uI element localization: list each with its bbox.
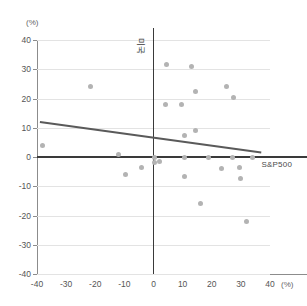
data-point [189, 64, 194, 69]
data-point [157, 159, 162, 164]
y-tick-label: 40 [0, 36, 31, 44]
gridline [37, 274, 270, 275]
y-tick-label: -10 [0, 182, 31, 190]
scatter-chart: (%) (%) 403020100-10-20-30-40 -40-30-20-… [0, 0, 307, 306]
data-point [116, 152, 121, 157]
y-tick-label: -40 [0, 270, 31, 278]
data-point [237, 165, 242, 170]
data-point [230, 155, 235, 160]
x-tick-label: -30 [51, 280, 81, 288]
x-tick-label: 40 [255, 280, 285, 288]
data-point [182, 174, 187, 179]
y-tick-label: 20 [0, 95, 31, 103]
data-point [206, 155, 211, 160]
x-tick-label: -10 [109, 280, 139, 288]
x-tick-label: -20 [80, 280, 110, 288]
y-tick-mark [33, 274, 37, 275]
data-point [250, 155, 255, 160]
y-axis-unit-label: (%) [26, 18, 38, 27]
y-tick-label: 0 [0, 153, 31, 161]
x-tick-label: 20 [197, 280, 227, 288]
trend-line-segment [40, 122, 261, 153]
y-tick-label: -20 [0, 212, 31, 220]
data-point [163, 102, 168, 107]
x-tick-label: -40 [22, 280, 52, 288]
data-point [193, 89, 198, 94]
x-tick-label: 30 [226, 280, 256, 288]
y-tick-label: -30 [0, 241, 31, 249]
data-point [231, 95, 236, 100]
x-tick-label: 0 [139, 280, 169, 288]
x-tick-label: 10 [168, 280, 198, 288]
y-tick-label: 10 [0, 124, 31, 132]
data-point [198, 201, 203, 206]
data-point [182, 133, 187, 138]
data-point [179, 102, 184, 107]
y-tick-label: 30 [0, 65, 31, 73]
data-point [182, 155, 187, 160]
